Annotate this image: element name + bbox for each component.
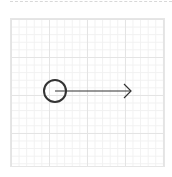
arrow-connector[interactable]: [55, 84, 131, 98]
diagram-layer: [0, 0, 172, 177]
